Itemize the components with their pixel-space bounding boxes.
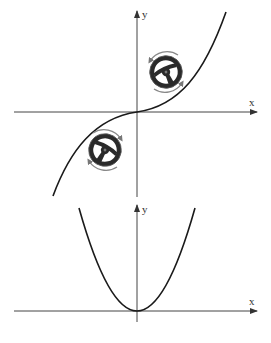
bottom-plot: y x	[14, 203, 257, 322]
top-y-axis-label: y	[142, 8, 148, 20]
bottom-x-axis-label: x	[249, 295, 255, 307]
function-graphs-figure: y x y x	[0, 0, 271, 343]
bottom-y-axis-label: y	[142, 203, 148, 215]
top-x-axis-label: x	[249, 96, 255, 108]
top-plot: y x	[14, 8, 257, 197]
cubic-curve	[53, 12, 226, 196]
steering-wheel-icon-upper	[144, 50, 187, 93]
